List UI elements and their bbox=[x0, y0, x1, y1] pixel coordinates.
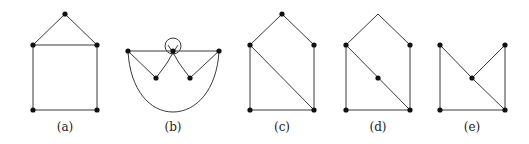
graph-vertex bbox=[311, 42, 316, 47]
graph-edge bbox=[440, 45, 472, 78]
graph-edge bbox=[128, 51, 156, 78]
graph-vertex bbox=[407, 107, 412, 112]
graph-vertex bbox=[170, 48, 175, 53]
graph-panel-d: (d) bbox=[343, 14, 412, 134]
graph-vertex bbox=[30, 42, 35, 47]
graph-edge bbox=[190, 51, 219, 78]
graph-vertex bbox=[279, 11, 284, 16]
graph-vertex bbox=[343, 107, 348, 112]
graph-vertex bbox=[407, 42, 412, 47]
graph-vertex bbox=[187, 75, 192, 80]
graph-edge bbox=[65, 14, 97, 45]
graph-vertex bbox=[94, 107, 99, 112]
graph-vertex bbox=[62, 11, 67, 16]
graph-vertex bbox=[343, 42, 348, 47]
graph-panel-c: (c) bbox=[247, 11, 316, 134]
graph-edge bbox=[33, 14, 65, 45]
panel-label: (d) bbox=[369, 120, 386, 134]
panel-label: (c) bbox=[274, 120, 290, 134]
graph-edge bbox=[378, 14, 410, 45]
graph-vertex bbox=[311, 107, 316, 112]
graph-vertex bbox=[153, 75, 158, 80]
graph-panel-e: (e) bbox=[437, 42, 507, 134]
graph-vertex bbox=[502, 42, 507, 47]
graph-vertex bbox=[469, 75, 474, 80]
graph-vertex bbox=[375, 75, 380, 80]
graph-vertex bbox=[94, 42, 99, 47]
graph-edge bbox=[472, 45, 505, 78]
graph-edge bbox=[250, 45, 314, 110]
panel-label: (a) bbox=[57, 120, 74, 134]
graph-figure: (a) (b) (c) (d) (e) bbox=[0, 0, 529, 144]
graph-vertex bbox=[30, 107, 35, 112]
graph-vertex bbox=[437, 42, 442, 47]
graph-vertex bbox=[437, 107, 442, 112]
graph-panel-b: (b) bbox=[125, 38, 221, 134]
graph-curved-edge bbox=[128, 51, 219, 112]
graph-vertex bbox=[216, 48, 221, 53]
graph-edge bbox=[346, 14, 378, 45]
graph-edge bbox=[472, 78, 505, 110]
graph-edge bbox=[282, 14, 314, 45]
graph-vertex bbox=[502, 107, 507, 112]
panel-label: (e) bbox=[464, 120, 480, 134]
graph-vertex bbox=[125, 48, 130, 53]
graph-panel-a: (a) bbox=[30, 11, 99, 134]
graph-edge bbox=[250, 14, 282, 45]
graph-vertex bbox=[247, 42, 252, 47]
graph-vertex bbox=[247, 107, 252, 112]
panel-label: (b) bbox=[164, 120, 181, 134]
